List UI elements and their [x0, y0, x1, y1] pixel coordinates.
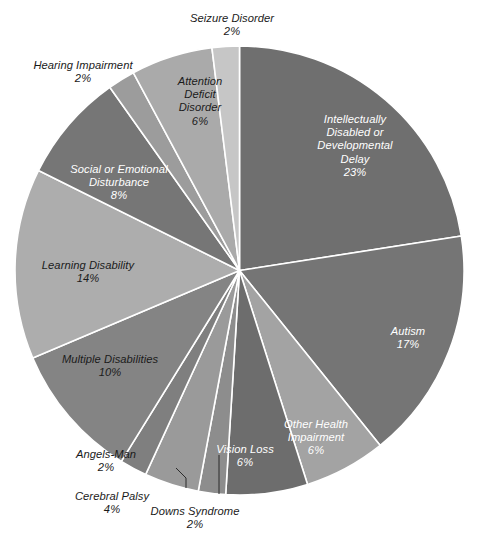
pie-slice-label-text: Hearing Impairment	[33, 59, 132, 71]
pie-slice-label-text: Vision Loss	[216, 443, 274, 455]
pie-slice-label: Learning Disability14%	[28, 259, 148, 285]
pie-slice-label-percent: 2%	[172, 25, 292, 38]
pie-slice-label: Attention Deficit Disorder6%	[166, 75, 234, 128]
pie-slice-label: Multiple Disabilities10%	[48, 353, 172, 379]
pie-chart: Intellectually Disabled or Developmental…	[0, 0, 477, 544]
pie-slice-label-percent: 8%	[54, 189, 184, 202]
pie-slice-label-text: Seizure Disorder	[190, 12, 274, 24]
pie-slice-label-text: Social or Emotional Disturbance	[70, 163, 167, 188]
pie-slice-label-text: Angels-Man	[76, 448, 136, 460]
pie-slice-label-text: Learning Disability	[42, 259, 134, 271]
pie-slice-label-percent: 6%	[203, 456, 287, 469]
pie-slice-label-percent: 4%	[60, 503, 164, 516]
pie-slice-label-text: Intellectually Disabled or Developmental…	[317, 113, 392, 165]
pie-slice-label: Intellectually Disabled or Developmental…	[290, 113, 420, 179]
pie-slice-label: Hearing Impairment2%	[19, 59, 147, 85]
pie-slice-label: Cerebral Palsy4%	[60, 490, 164, 516]
pie-slice-label-text: Autism	[391, 325, 426, 337]
pie-slice-label-text: Other Health Impairment	[284, 418, 348, 443]
pie-slice-label-percent: 17%	[368, 338, 448, 351]
pie-slice-label: Autism17%	[368, 325, 448, 351]
pie-slice-label: Seizure Disorder2%	[172, 12, 292, 38]
pie-slice-label-percent: 23%	[290, 166, 420, 179]
pie-slice-label: Angels-Man2%	[60, 448, 152, 474]
pie-slice-label-percent: 10%	[48, 366, 172, 379]
pie-slice-label: Social or Emotional Disturbance8%	[54, 163, 184, 203]
pie-slice-label-percent: 2%	[19, 72, 147, 85]
pie-slice-label-text: Multiple Disabilities	[62, 353, 158, 365]
pie-slice-label-percent: 14%	[28, 272, 148, 285]
pie-slice-label-percent: 2%	[60, 461, 152, 474]
pie-slice-label-text: Cerebral Palsy	[75, 490, 149, 502]
pie-slice-label: Vision Loss6%	[203, 443, 287, 469]
pie-slice-label-percent: 2%	[140, 518, 250, 531]
pie-slice-label-percent: 6%	[166, 115, 234, 128]
pie-slice-label-text: Attention Deficit Disorder	[178, 75, 223, 113]
